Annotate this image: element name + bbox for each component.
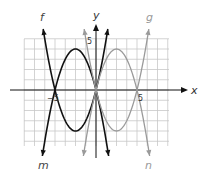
curve-label-g: g — [146, 11, 153, 24]
y-tick-5: 5 — [87, 37, 92, 46]
x-tick-5: 5 — [138, 94, 143, 103]
curve-label-m: m — [38, 159, 49, 172]
x-axis-label: x — [190, 84, 198, 97]
parabola-graph: x y −5 5 5 f g m n — [0, 0, 199, 179]
y-axis-arrow-icon — [93, 24, 99, 31]
arrowhead-icon — [82, 150, 87, 156]
x-tick-neg5: −5 — [47, 94, 59, 103]
arrowhead-icon — [83, 29, 88, 35]
curve-label-n: n — [145, 159, 152, 172]
arrowhead-icon — [146, 150, 151, 156]
x-axis-arrow-icon — [181, 87, 188, 93]
arrowhead-icon — [145, 29, 150, 35]
curve-label-f: f — [40, 11, 46, 24]
y-axis-label: y — [92, 9, 100, 22]
